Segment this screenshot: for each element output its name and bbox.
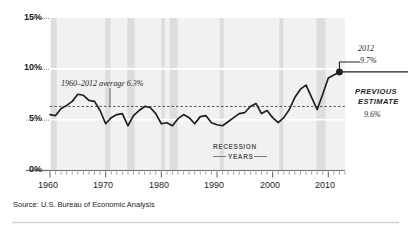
previous-estimate-title-line1: PREVIOUS xyxy=(355,87,397,96)
chart-figure: 15% 10% 5% 0% 1960 1970 1980 1990 2000 2… xyxy=(0,0,411,232)
recession-band xyxy=(161,18,164,171)
previous-estimate-title-line2: ESTIMATE xyxy=(358,97,399,106)
recession-band xyxy=(317,18,326,171)
source-note: Source: U.S. Bureau of Economic Analysis xyxy=(13,200,155,209)
recession-band xyxy=(51,18,57,171)
x-tick-label-1980: 1980 xyxy=(149,180,169,190)
endpoint-marker-dot xyxy=(336,68,343,75)
y-tick-label-0: 0% xyxy=(29,164,42,174)
recession-label-line2: YEARS xyxy=(228,153,253,160)
recession-band xyxy=(279,18,283,171)
corporate-profits-line-chart xyxy=(0,0,411,232)
x-tick-label-1970: 1970 xyxy=(93,180,113,190)
y-tick-label-15: 15% xyxy=(24,12,42,22)
x-tick-label-2000: 2000 xyxy=(260,180,280,190)
recession-label-line1: RECESSION xyxy=(213,143,257,150)
endpoint-value-label: 9.7% xyxy=(360,56,377,65)
previous-estimate-value: 9.6% xyxy=(364,110,381,119)
average-annotation-label: 1960–2012 average 6.3% xyxy=(61,79,143,88)
x-axis-ticks-group xyxy=(50,172,345,178)
y-tick-label-10: 10% xyxy=(24,62,42,72)
x-tick-label-1990: 1990 xyxy=(204,180,224,190)
endpoint-year-label: 2012 xyxy=(358,44,374,53)
x-tick-label-2010: 2010 xyxy=(315,180,335,190)
recession-band xyxy=(127,18,134,171)
x-tick-label-1960: 1960 xyxy=(38,180,58,190)
recession-band xyxy=(170,18,178,171)
plot-background xyxy=(50,18,345,170)
y-tick-label-5: 5% xyxy=(29,113,42,123)
